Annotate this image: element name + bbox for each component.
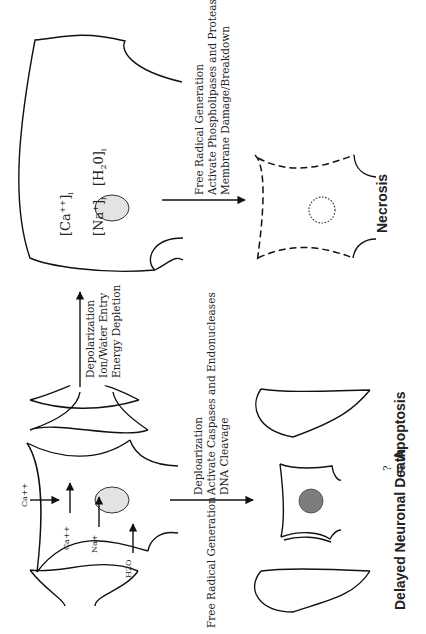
presynaptic-terminal-middle	[30, 392, 148, 433]
neuronal-death-diagram: Ca++ Ca++ Na+ H2O Depolarization Ion/Wat…	[0, 0, 426, 634]
necrosis-label: Necrosis	[374, 174, 390, 233]
svg-text:Free Radical Generation: Free Radical Generation	[193, 64, 205, 195]
initial-neuron-nucleus	[95, 487, 129, 513]
svg-text:=: =	[392, 465, 408, 473]
initial-neuron-dendrite-upper	[130, 440, 178, 466]
initial-neuron-membrane-right	[27, 440, 130, 456]
swollen-neuron: [Na+]i [Ca++]i [H20]i	[19, 35, 183, 271]
svg-text:Membrane Damage/Breakdown: Membrane Damage/Breakdown	[219, 26, 231, 195]
svg-text:Depolarization: Depolarization	[84, 300, 96, 378]
initial-neuron-membrane-top	[27, 443, 41, 572]
ion-label-h2o: H2O	[124, 559, 133, 578]
necrosis-cell: Necrosis	[255, 155, 390, 263]
apoptosis-terminal-bottom	[255, 569, 370, 612]
apoptosis-terminal-top	[256, 389, 370, 437]
svg-text:DNA Cleavage: DNA Cleavage	[218, 417, 230, 495]
apoptosis-nucleus	[299, 489, 323, 513]
ion-label-na: Na+	[90, 535, 99, 553]
arrow-to-apoptosis-label: Free Radical Generation Deploarization A…	[192, 292, 230, 628]
apoptosis-caption: Delayed Neuronal Death ? = Apoptosis	[381, 391, 408, 610]
necrosis-dendrite-right	[354, 155, 376, 177]
svg-text:Energy Depletion: Energy Depletion	[110, 285, 122, 378]
presynaptic-terminal-left	[30, 565, 138, 606]
necrosis-membrane-left	[258, 247, 353, 258]
necrosis-membrane-right	[258, 155, 354, 168]
swollen-label-ca: [Ca++]i	[58, 192, 75, 236]
necrosis-nucleus	[309, 197, 335, 223]
ion-label-ca: Ca++	[62, 526, 71, 550]
swollen-label-na: [Na+]i	[91, 197, 108, 236]
svg-text:Apoptosis: Apoptosis	[392, 391, 408, 460]
necrosis-membrane-top	[255, 155, 263, 263]
presynaptic-terminal-top	[30, 386, 139, 408]
necrosis-dendrite-left	[353, 239, 376, 258]
apoptosis-membrane-bleb	[284, 537, 331, 542]
ion-label-ca-top: Ca++	[20, 483, 29, 507]
svg-text:Ion/Water Entry: Ion/Water Entry	[97, 293, 109, 378]
svg-text:Free Radical Generation: Free Radical Generation	[205, 497, 217, 628]
swollen-label-h2o: [H20]i	[91, 148, 108, 186]
initial-neuron: Ca++ Ca++ Na+ H2O	[20, 386, 178, 606]
svg-text:Deploarization: Deploarization	[192, 417, 204, 495]
svg-text:Activate Caspases and Endonucl: Activate Caspases and Endonucleases	[205, 292, 217, 496]
apoptosis-cell: Delayed Neuronal Death ? = Apoptosis	[255, 389, 408, 612]
svg-text:Activate Phospholipases and Pr: Activate Phospholipases and Proteases	[206, 0, 218, 196]
initial-neuron-dendrite-lower	[148, 532, 178, 551]
arrow-to-necrosis-label: Free Radical Generation Activate Phospho…	[193, 0, 231, 196]
arrow-to-swollen-label: Depolarization Ion/Water Entry Energy De…	[84, 285, 122, 378]
